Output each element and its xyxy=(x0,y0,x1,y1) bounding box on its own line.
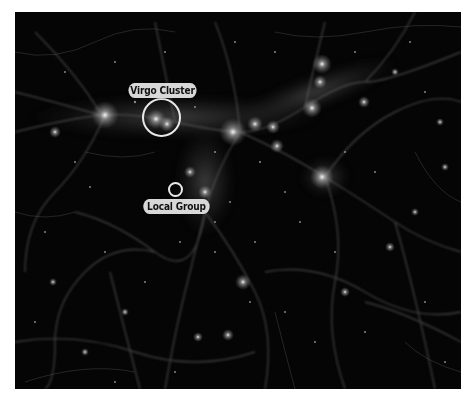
local-group-label: Local Group xyxy=(143,199,209,214)
virgo-cluster-marker xyxy=(142,98,181,137)
virgo-cluster-label: Virgo Cluster xyxy=(128,83,196,98)
cosmic-web-image: Virgo Cluster Local Group xyxy=(15,12,461,389)
cosmic-web-visual xyxy=(15,12,461,389)
local-group-marker xyxy=(168,182,183,197)
